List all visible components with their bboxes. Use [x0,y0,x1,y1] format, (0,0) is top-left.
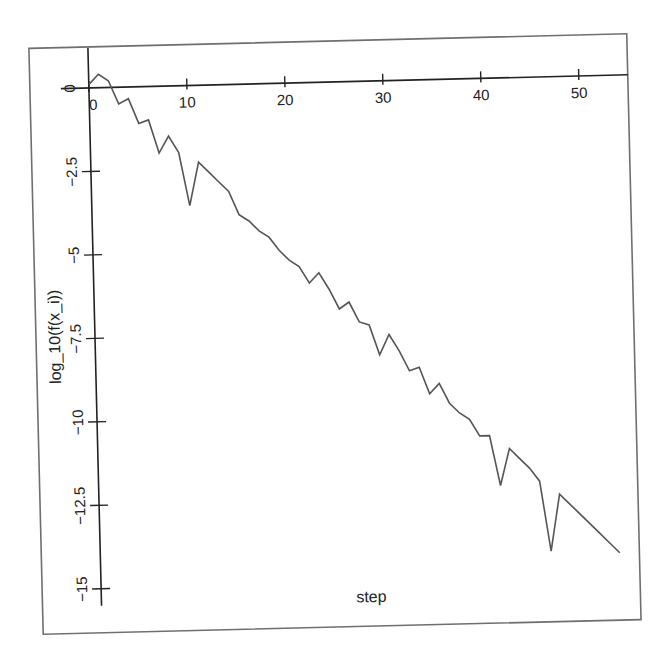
x-tick-label: 40 [473,86,490,103]
x-axis-label: step [356,588,387,606]
x-tick-label: 50 [571,84,588,101]
x-tick-label: 30 [375,89,392,106]
y-tick-label: −12.5 [71,487,89,525]
y-axis [88,48,102,606]
y-tick-label: −15 [73,576,91,602]
x-axis [61,75,628,89]
x-tick-label: 0 [89,96,98,113]
y-axis-label: log_10(f(x_i)) [45,290,65,385]
x-tick-label: 20 [277,91,294,108]
y-tick-label: −2.5 [63,157,81,187]
x-tick-label: 10 [179,93,196,110]
line-chart: 01020304050 0−2.5−5−7.5−10−12.5−15 step … [0,0,670,654]
y-tick-label: −5 [65,247,82,265]
data-series-line [89,62,620,566]
y-tick-label: −7.5 [67,324,85,354]
y-tick-label: −10 [69,409,87,435]
y-ticks: 0−2.5−5−7.5−10−12.5−15 [61,84,111,603]
y-tick-label: 0 [61,84,78,93]
x-ticks: 01020304050 [89,69,588,113]
